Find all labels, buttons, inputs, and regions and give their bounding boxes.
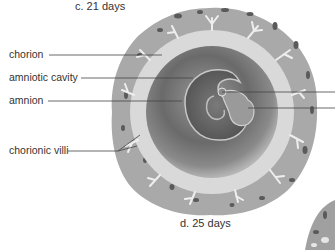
panel-d-caption: d. 25 days <box>180 217 231 229</box>
label-amniotic-cavity: amniotic cavity <box>9 71 78 83</box>
label-chorionic-villi: chorionic villi <box>9 144 69 156</box>
panel-c-caption: c. 21 days <box>75 0 125 12</box>
panel-d-partial <box>305 200 335 250</box>
label-amnion: amnion <box>9 94 43 106</box>
embryo-diagram <box>0 0 335 250</box>
label-chorion: chorion <box>9 48 43 60</box>
